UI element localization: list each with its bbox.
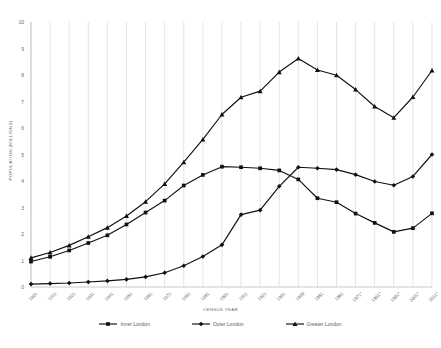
legend-label: Greater London — [307, 321, 342, 327]
data-point — [182, 184, 186, 188]
legend-swatch — [286, 320, 304, 328]
series-inner-london — [29, 165, 434, 264]
data-point — [316, 196, 320, 200]
legend-swatch — [192, 320, 210, 328]
axis-lines — [31, 22, 432, 287]
data-point — [67, 281, 72, 286]
series-outer-london — [29, 152, 435, 286]
series-line — [31, 155, 432, 285]
legend-swatch — [99, 320, 117, 328]
legend-item-inner-london[interactable]: Inner London — [99, 320, 149, 328]
data-point — [296, 178, 300, 182]
data-point — [105, 279, 110, 284]
data-point — [391, 183, 396, 188]
data-point — [315, 67, 320, 72]
data-point — [430, 211, 434, 215]
legend-item-outer-london[interactable]: Outer London — [192, 320, 244, 328]
data-point — [48, 281, 53, 286]
data-point — [277, 169, 281, 173]
data-point — [106, 233, 110, 237]
data-point — [201, 173, 205, 177]
data-point — [334, 167, 339, 172]
data-point — [372, 179, 377, 184]
data-point — [181, 263, 186, 268]
data-point — [105, 225, 110, 230]
chart-legend: Inner LondonOuter LondonGreater London — [0, 320, 441, 328]
legend-item-greater-london[interactable]: Greater London — [286, 320, 342, 328]
data-point — [86, 241, 90, 245]
data-point — [125, 223, 129, 227]
legend-marker — [199, 322, 204, 327]
data-point — [239, 165, 243, 169]
population-line-chart: POPULATION (MILLIONS) CENSUS YEAR 012345… — [0, 0, 441, 348]
data-point — [86, 280, 91, 285]
plot-area — [0, 0, 441, 348]
data-point — [392, 230, 396, 234]
data-point — [29, 260, 33, 264]
data-point — [430, 68, 435, 73]
data-point — [124, 277, 129, 282]
data-point — [29, 282, 34, 287]
data-point — [258, 166, 262, 170]
legend-marker — [107, 322, 111, 326]
data-point — [143, 275, 148, 280]
data-point — [48, 255, 52, 259]
data-point — [144, 211, 148, 215]
data-point — [163, 199, 167, 203]
data-point — [411, 226, 415, 230]
data-point — [353, 172, 358, 177]
legend-label: Inner London — [120, 321, 149, 327]
data-point — [220, 165, 224, 169]
data-point — [373, 221, 377, 225]
data-point — [67, 249, 71, 253]
data-point — [162, 270, 167, 275]
data-point — [354, 212, 358, 216]
series-line — [31, 59, 432, 258]
gridlines — [31, 22, 432, 287]
data-series-layer — [29, 56, 435, 286]
data-point — [335, 200, 339, 204]
data-point — [296, 56, 301, 61]
legend-label: Outer London — [213, 321, 244, 327]
data-point — [315, 166, 320, 171]
